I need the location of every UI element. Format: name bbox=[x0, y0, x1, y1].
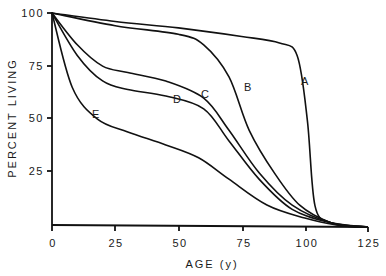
y-tick-50: 50 bbox=[29, 112, 44, 124]
y-tick-75: 75 bbox=[29, 60, 44, 72]
curve-label-d: D bbox=[173, 93, 181, 105]
y-axis-title: PERCENT LIVING bbox=[6, 58, 18, 178]
y-tick-100: 100 bbox=[21, 7, 44, 19]
y-tick-labels: 100 75 50 25 bbox=[21, 7, 44, 177]
x-tick-labels: 0 25 50 75 100 125 bbox=[49, 237, 380, 249]
x-tick-125: 125 bbox=[358, 237, 381, 249]
curve-label-e: E bbox=[92, 108, 99, 120]
curve-label-b: B bbox=[244, 81, 251, 93]
x-tick-100: 100 bbox=[296, 237, 319, 249]
x-axis-title: AGE (y) bbox=[185, 258, 238, 270]
y-tick-25: 25 bbox=[29, 165, 44, 177]
x-tick-25: 25 bbox=[108, 237, 123, 249]
curve-e bbox=[52, 13, 368, 227]
survival-chart: 100 75 50 25 0 25 50 75 100 125 AGE (y) … bbox=[0, 0, 386, 276]
curve-label-c: C bbox=[201, 88, 209, 100]
x-tick-50: 50 bbox=[172, 237, 187, 249]
curve-label-a: A bbox=[301, 75, 309, 87]
x-tick-75: 75 bbox=[236, 237, 251, 249]
x-tick-0: 0 bbox=[49, 237, 57, 249]
x-axis bbox=[52, 225, 368, 227]
survival-curves bbox=[52, 13, 368, 227]
